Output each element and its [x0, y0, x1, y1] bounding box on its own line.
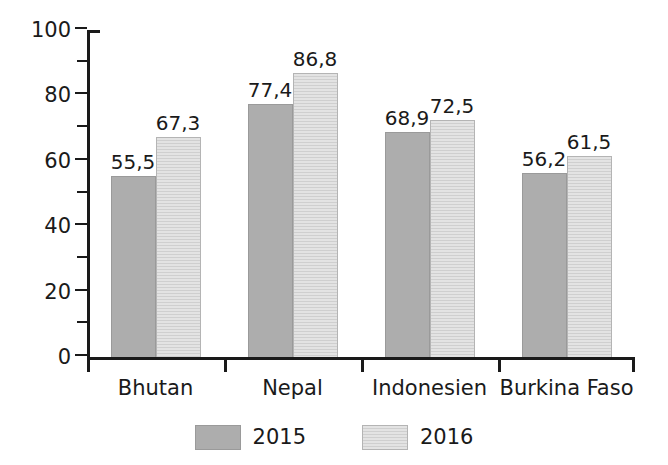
y-axis-tick-major	[75, 92, 87, 94]
legend-label-2016: 2016	[420, 427, 473, 448]
legend-item-2016: 2016	[362, 425, 473, 450]
bar-bhutan-2015: 55,5	[111, 176, 156, 357]
bar-indonesien-2015: 68,9	[385, 132, 430, 357]
y-axis-tick-major	[75, 158, 87, 160]
chart-legend: 20152016	[0, 425, 668, 450]
legend-item-2015: 2015	[195, 425, 306, 450]
bar-burkina-faso-2016: 61,5	[567, 156, 612, 357]
y-axis-tick-minor	[77, 321, 87, 323]
bar-value-label: 56,2	[522, 149, 567, 169]
category-label-nepal: Nepal	[262, 378, 323, 399]
plot-area: 020406080100 55,567,377,486,868,972,556,…	[87, 30, 635, 357]
y-axis-tick-major	[75, 223, 87, 225]
x-axis-left-cap	[87, 357, 90, 372]
y-axis-tick-label: 60	[44, 150, 71, 171]
bar-value-label: 86,8	[293, 49, 338, 69]
bar-chart: 020406080100 55,567,377,486,868,972,556,…	[0, 0, 668, 465]
bar-nepal-2016: 86,8	[293, 73, 338, 357]
legend-swatch-2016	[362, 425, 408, 450]
bar-value-label: 77,4	[248, 80, 293, 100]
category-label-indonesien: Indonesien	[372, 378, 487, 399]
y-axis-tick-label: 100	[31, 20, 71, 41]
x-axis-right-cap	[632, 357, 635, 372]
group-separator-tick	[224, 357, 227, 372]
legend-swatch-2015	[195, 425, 241, 450]
y-axis-tick-major	[75, 27, 87, 29]
y-axis-tick-label: 80	[44, 85, 71, 106]
bar-nepal-2015: 77,4	[248, 104, 293, 357]
group-separator-tick	[361, 357, 364, 372]
bar-value-label: 67,3	[156, 113, 201, 133]
y-axis-tick-major	[75, 354, 87, 356]
bar-value-label: 61,5	[567, 132, 612, 152]
group-separator-tick	[498, 357, 501, 372]
bar-value-label: 68,9	[385, 108, 430, 128]
y-axis-tick-major	[75, 289, 87, 291]
bar-indonesien-2016: 72,5	[430, 120, 475, 357]
bar-burkina-faso-2015: 56,2	[522, 173, 567, 357]
y-axis-tick-minor	[77, 256, 87, 258]
y-axis-tick-minor	[77, 60, 87, 62]
category-label-bhutan: Bhutan	[118, 378, 193, 399]
y-axis-tick-label: 0	[58, 347, 71, 368]
y-axis-tick-label: 40	[44, 216, 71, 237]
category-label-burkina-faso: Burkina Faso	[499, 378, 633, 399]
bar-value-label: 55,5	[111, 152, 156, 172]
bar-value-label: 72,5	[430, 96, 475, 116]
y-axis-tick-label: 20	[44, 281, 71, 302]
legend-label-2015: 2015	[253, 427, 306, 448]
y-axis-tick-minor	[77, 191, 87, 193]
y-axis-tick-minor	[77, 125, 87, 127]
bar-bhutan-2016: 67,3	[156, 137, 201, 357]
